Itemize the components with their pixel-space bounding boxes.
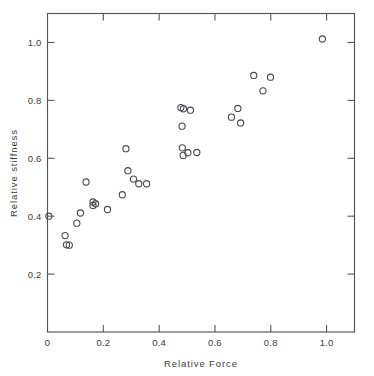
data-point [185,150,191,156]
axis-ticks [48,14,355,333]
x-tick-label-2: 0.4 [152,337,166,348]
data-point [179,145,185,151]
data-point [228,114,234,120]
data-point [238,120,244,126]
x-tick-label-5: 1.0 [320,337,334,348]
x-tick-label-1: 0.2 [96,337,110,348]
y-axis-title: Relative stiffness [8,129,19,217]
y-tick-label-2: 0.6 [28,153,42,164]
data-point [267,74,273,80]
data-point [136,181,142,187]
x-tick-label-0: 0 [45,337,50,348]
data-point [235,105,241,111]
data-point-series [46,36,326,248]
data-point [83,179,89,185]
y-tick-label-1: 0.4 [28,211,42,222]
x-tick-labels: 00.20.40.60.81.0 [45,337,334,348]
data-point [194,149,200,155]
plot-frame [48,14,355,333]
data-point [319,36,325,42]
y-tick-label-3: 0.8 [28,95,42,106]
x-tick-label-4: 0.8 [264,337,278,348]
data-point [143,181,149,187]
data-point [104,206,110,212]
data-point [123,146,129,152]
x-axis-title: Relative Force [164,358,238,369]
plot-canvas: 00.20.40.60.81.0 0.20.40.60.81.0 Relativ… [0,0,374,376]
data-point [130,176,136,182]
data-point [119,192,125,198]
x-tick-label-3: 0.6 [208,337,222,348]
data-point [74,220,80,226]
data-point [251,72,257,78]
data-point [179,123,185,129]
data-point [77,210,83,216]
data-point [260,88,266,94]
y-tick-label-4: 1.0 [28,37,42,48]
scatter-plot-figure: 00.20.40.60.81.0 0.20.40.60.81.0 Relativ… [0,0,374,376]
y-tick-label-0: 0.2 [28,269,42,280]
data-point [125,168,131,174]
y-tick-labels: 0.20.40.60.81.0 [28,37,42,280]
data-point [187,107,193,113]
data-point [62,232,68,238]
